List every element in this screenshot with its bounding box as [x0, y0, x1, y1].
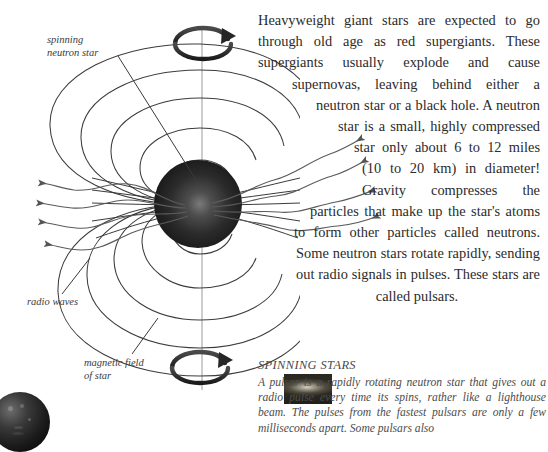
label-spinning-neutron-star-line2: neutron star	[47, 47, 98, 60]
label-radio-waves: radio waves	[27, 296, 78, 309]
label-magnetic-field-of-star: magnetic field of star	[84, 357, 144, 382]
label-spinning-neutron-star-line1: spinning	[47, 34, 98, 47]
leader-radio-waves	[62, 258, 90, 294]
label-magnetic-field-line1: magnetic field	[84, 357, 144, 370]
leader-spinning-neutron-star	[118, 56, 196, 180]
diagram-leader-lines	[0, 0, 300, 400]
leader-magnetic-field	[132, 318, 158, 354]
label-magnetic-field-line2: of star	[84, 370, 144, 383]
label-spinning-neutron-star: spinning neutron star	[47, 34, 98, 59]
neutron-star-diagram: spinning neutron star radio waves magnet…	[0, 0, 300, 400]
moon-photo	[0, 392, 50, 452]
caption-body: A pulsar is a rapidly rotating neutron s…	[258, 375, 546, 436]
article-text-block: Heavyweight giant stars are expected to …	[258, 10, 540, 358]
caption-block: SPINNING STARS A pulsar is a rapidly rot…	[258, 358, 546, 436]
caption-heading: SPINNING STARS	[258, 358, 546, 373]
